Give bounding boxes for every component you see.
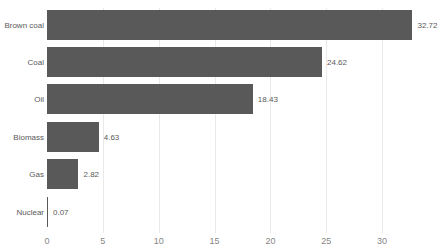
value-label: 32.72 (417, 20, 437, 29)
bar-row: Oil18.43 (0, 84, 440, 114)
value-label: 2.82 (83, 170, 99, 179)
category-label: Gas (29, 170, 44, 179)
bar (47, 197, 48, 227)
x-tick-label: 10 (154, 236, 164, 246)
value-label: 18.43 (258, 95, 278, 104)
bar (47, 84, 253, 114)
x-tick-label: 15 (210, 236, 220, 246)
x-tick-label: 0 (44, 236, 49, 246)
bar-row: Biomass4.63 (0, 122, 440, 152)
category-label: Biomass (13, 132, 44, 141)
bar (47, 10, 412, 40)
bar (47, 47, 322, 77)
category-label: Coal (28, 57, 44, 66)
x-tick-label: 20 (265, 236, 275, 246)
value-label: 0.07 (53, 207, 69, 216)
x-tick-label: 5 (100, 236, 105, 246)
bar-row: Coal24.62 (0, 47, 440, 77)
x-tick-label: 25 (321, 236, 331, 246)
value-label: 4.63 (104, 132, 120, 141)
bar (47, 122, 99, 152)
bar-row: Brown coal32.72 (0, 10, 440, 40)
category-label: Nuclear (16, 207, 44, 216)
category-label: Oil (34, 95, 44, 104)
value-label: 24.62 (327, 57, 347, 66)
bar-row: Gas2.82 (0, 159, 440, 189)
bar-chart: Brown coal32.72Coal24.62Oil18.43Biomass4… (0, 0, 440, 251)
x-tick-label: 30 (377, 236, 387, 246)
bar (47, 159, 78, 189)
bar-row: Nuclear0.07 (0, 197, 440, 227)
category-label: Brown coal (4, 20, 44, 29)
